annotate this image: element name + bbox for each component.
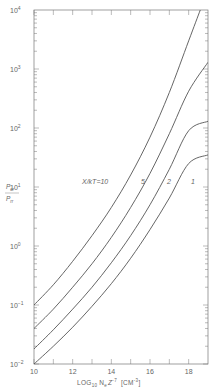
svg-text:LOG10NeZ-7[CM-3]: LOG10NeZ-7[CM-3] (77, 378, 141, 388)
y-tick-label: 10−1 (10, 300, 24, 309)
y-tick-label: 103 (10, 64, 21, 73)
curve-label-1: 1 (191, 178, 195, 185)
x-tick-label: 18 (185, 368, 193, 375)
x-tick-label: 10 (30, 368, 38, 375)
curve-xkt-5 (34, 62, 208, 328)
curve-xkt-1 (34, 155, 208, 364)
x-tick-label: 12 (69, 368, 77, 375)
y-tick-label: 10−2 (10, 359, 24, 368)
curves (34, 10, 208, 364)
y-axis-ticks: 10−210−1100101102103104 (10, 5, 208, 368)
curve-label-5: 5 (141, 178, 145, 185)
x-axis-ticks: 1012141618 (30, 10, 193, 375)
x-tick-label: 14 (107, 368, 115, 375)
curve-xkt-2 (34, 121, 208, 349)
x-tick-label: 16 (146, 368, 154, 375)
x-axis-label: LOG10NeZ-7[CM-3] (77, 378, 141, 388)
y-tick-label: 104 (10, 5, 21, 14)
svg-text:Prr: Prr (6, 195, 14, 204)
chart: 10−210−1100101102103104 1012141618 Pcr P… (0, 0, 218, 392)
plot-frame (34, 10, 208, 364)
y-tick-label: 102 (10, 123, 21, 132)
y-tick-label: 100 (10, 241, 21, 250)
curve-label-2: 2 (166, 178, 171, 185)
curve-label-10: X/kT=10 (81, 178, 108, 185)
